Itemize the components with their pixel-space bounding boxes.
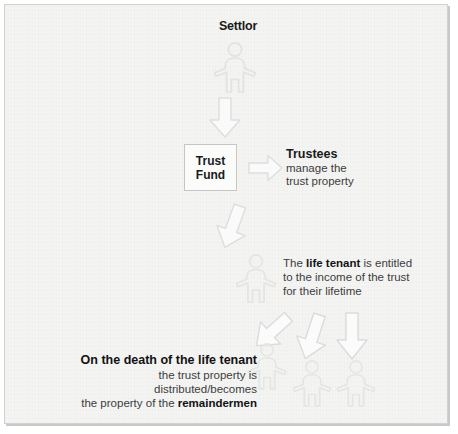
remaindermen-line3: the property of the remaindermen (57, 396, 257, 410)
person-figure-settlor (211, 41, 259, 93)
arrow-trust-fund-to-life-tenant (211, 203, 255, 253)
arrow-settlor-to-trust-fund (208, 97, 242, 139)
life-tenant-line1: The life tenant is entitled (283, 256, 435, 270)
trust-fund-box: Trust Fund (184, 144, 237, 191)
arrow-trust-fund-to-trustees (248, 154, 283, 182)
arrow-life-tenant-to-remainderman-2 (291, 312, 335, 364)
remaindermen-line2: the trust property is distributed/become… (57, 368, 257, 396)
person-figure-life-tenant (233, 253, 279, 303)
remaindermen-emphasis: remaindermen (178, 397, 257, 409)
trust-fund-line2: Fund (196, 168, 225, 182)
settlor-label: Settlor (188, 19, 288, 33)
arrow-life-tenant-to-remainderman-3 (335, 312, 369, 362)
remaindermen-line3-prefix: the property of the (81, 397, 178, 409)
diagram-frame: Settlor Trust Fund Trustees manage the t… (4, 4, 448, 424)
trust-fund-line1: Trust (196, 154, 225, 168)
life-tenant-emphasis: life tenant (306, 257, 360, 269)
life-tenant-line1-suffix: is entitled (360, 257, 412, 269)
person-figure-remainderman-3 (334, 359, 378, 407)
life-tenant-line3: for their lifetime (283, 284, 435, 298)
trustees-heading: Trustees (286, 148, 426, 162)
remaindermen-text-block: On the death of the life tenant the trus… (57, 353, 257, 410)
trustees-text-block: Trustees manage the trust property (286, 148, 426, 189)
life-tenant-line1-prefix: The (283, 257, 306, 269)
life-tenant-text-block: The life tenant is entitled to the incom… (283, 256, 435, 298)
person-figure-remainderman-2 (290, 359, 334, 407)
remaindermen-heading: On the death of the life tenant (57, 353, 257, 368)
life-tenant-line2: to the income of the trust (283, 270, 435, 284)
trustees-line2: trust property (286, 175, 426, 189)
trustees-line1: manage the (286, 162, 426, 176)
